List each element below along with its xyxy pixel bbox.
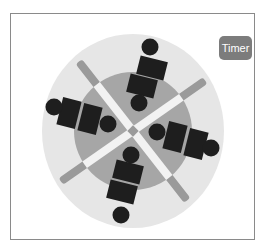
person-head-icon (123, 147, 140, 164)
person-head-icon (131, 95, 148, 112)
person-head-icon (142, 39, 159, 56)
person-head-icon (113, 207, 130, 224)
timer-button[interactable]: Timer (219, 36, 252, 60)
person-head-icon (46, 99, 63, 116)
person-head-icon (100, 116, 117, 133)
person-head-icon (203, 140, 220, 157)
person-head-icon (149, 124, 166, 141)
